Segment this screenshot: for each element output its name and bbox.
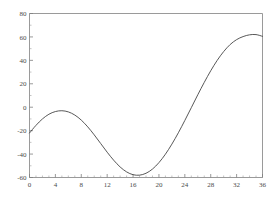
line-chart: 04812162024283236 -60-40-20020406080 [0,0,277,199]
x-tick-label: 0 [28,181,32,189]
x-tick-label: 20 [155,181,163,189]
y-tick-label: 40 [20,57,28,65]
x-tick-label: 32 [233,181,241,189]
y-tick-label: -20 [17,127,27,135]
y-tick-label: -60 [17,174,27,182]
x-tick-label: 36 [259,181,267,189]
y-tick-label: 0 [23,104,27,112]
x-tick-label: 28 [207,181,215,189]
x-tick-label: 4 [54,181,58,189]
chart-background [0,0,277,199]
y-tick-label: 60 [20,34,28,42]
figure-container: 04812162024283236 -60-40-20020406080 [0,0,277,199]
x-tick-label: 12 [104,181,112,189]
x-tick-label: 8 [80,181,84,189]
y-tick-label: -40 [17,151,27,159]
y-tick-label: 20 [20,80,28,88]
x-tick-label: 16 [130,181,138,189]
x-tick-label: 24 [181,181,189,189]
y-tick-label: 80 [20,10,28,18]
